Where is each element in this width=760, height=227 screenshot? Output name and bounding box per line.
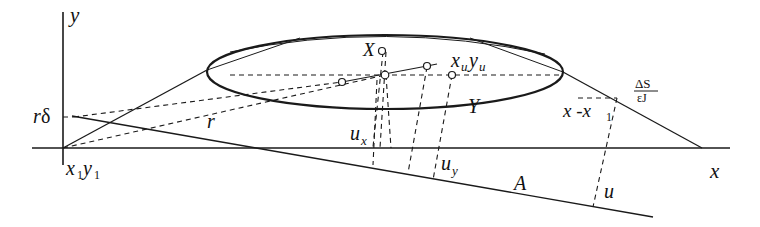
Y-label: Y — [468, 95, 481, 117]
svg-text:u: u — [479, 59, 486, 74]
r-delta-label: r δ — [33, 105, 50, 127]
svg-text:x: x — [360, 133, 367, 148]
svg-text:r: r — [33, 105, 41, 127]
dash-ux-3 — [386, 75, 391, 148]
x-axis-label: x — [709, 159, 720, 183]
svg-text:1: 1 — [606, 110, 612, 124]
left-tangent-upper — [207, 38, 300, 70]
dash-ux-4 — [373, 80, 377, 165]
svg-text:y: y — [467, 49, 478, 72]
origin-label: x 1 y 1 — [65, 157, 100, 182]
point-center — [381, 71, 389, 79]
point-upper-right — [424, 63, 431, 70]
svg-text:x: x — [450, 49, 460, 71]
A-label: A — [512, 172, 527, 194]
x-minus-x1-label: x -x 1 — [562, 100, 612, 124]
svg-text:1: 1 — [94, 168, 100, 182]
xuyu-label: x u y u — [450, 49, 486, 74]
dash-mid — [408, 67, 427, 173]
dash-ux-2 — [380, 52, 386, 148]
svg-text:X: X — [362, 39, 376, 60]
svg-text:ΔS: ΔS — [635, 76, 651, 91]
ellipse-top-inner — [230, 36, 545, 54]
svg-text:εJ: εJ — [637, 91, 647, 105]
uy-label: u y — [441, 152, 458, 178]
svg-text:u: u — [441, 152, 451, 174]
svg-text:x -x: x -x — [562, 100, 592, 121]
point-Xn — [379, 48, 386, 55]
svg-text:u: u — [350, 122, 360, 144]
point-left — [339, 79, 346, 86]
dash-ux-1 — [373, 52, 383, 147]
diagram-canvas: y x x 1 y 1 r δ r X x u y u Y u x u y A … — [0, 0, 760, 227]
r-label: r — [207, 110, 215, 132]
u-label: u — [604, 180, 614, 202]
svg-text:δ: δ — [41, 105, 50, 127]
svg-text:x: x — [65, 157, 75, 179]
ux-label: u x — [350, 122, 367, 148]
svg-text:y: y — [81, 157, 92, 180]
Xn-label: X — [362, 39, 376, 60]
line-A — [72, 116, 653, 217]
svg-text:y: y — [450, 163, 458, 178]
dash-r — [63, 75, 385, 148]
svg-text:u: u — [461, 59, 468, 74]
delta-s-over-eps-j-fraction: ΔS εJ — [634, 76, 658, 105]
point-xuyu — [449, 72, 456, 79]
y-axis-label: y — [68, 3, 80, 27]
